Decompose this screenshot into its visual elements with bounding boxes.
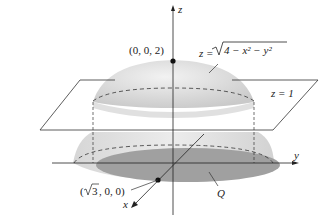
z-axis-arrow [171, 5, 175, 11]
region-q [96, 148, 280, 182]
point-top [170, 58, 175, 63]
x-point-rest: , 0, 0) [99, 186, 125, 197]
top-point-label: (0, 0, 2) [129, 45, 164, 56]
z-axis-label: z [178, 4, 182, 15]
x-point-open: ( [80, 186, 84, 197]
plane-equation: z = 1 [271, 88, 294, 99]
surface-equation-radicand: 4 − x² − y² [224, 45, 272, 56]
diagram-graphic [0, 0, 321, 217]
hemisphere-dome [93, 60, 254, 108]
region-q-label: Q [217, 188, 225, 199]
x-axis-label: x [123, 199, 128, 210]
y-axis-label: y [294, 150, 299, 161]
surface-equation-prefix: z = [199, 48, 213, 59]
hemisphere-diagram: z y x (0, 0, 2) z = 4 − x² − y² z = 1 ( … [0, 0, 321, 217]
y-axis-arrow [292, 161, 299, 165]
x-point-sqrt-value: 3 [92, 186, 98, 197]
